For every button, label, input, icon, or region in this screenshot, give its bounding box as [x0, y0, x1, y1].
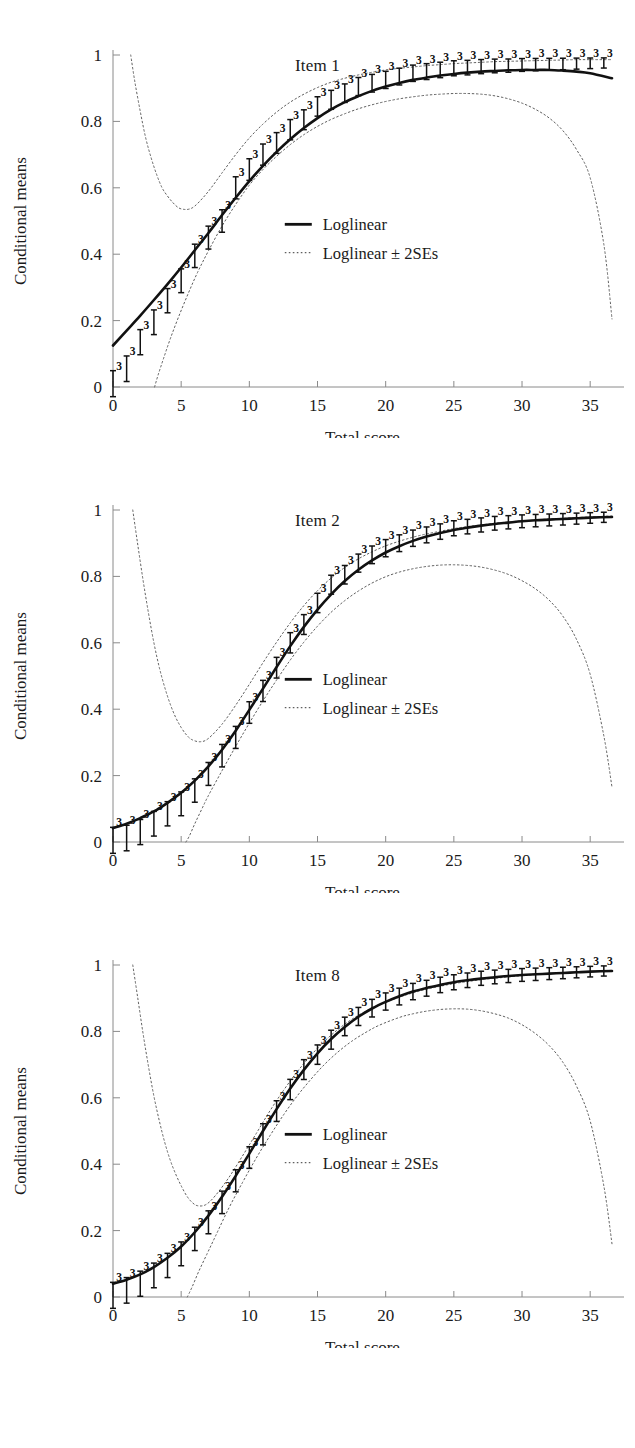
observed-error-bar	[110, 827, 116, 853]
x-tick-label: 35	[582, 851, 599, 870]
observed-error-bar	[110, 371, 116, 397]
y-tick-label: 0.2	[81, 767, 102, 786]
x-axis-title: Total score	[325, 883, 400, 893]
x-tick-label: 30	[514, 1306, 531, 1325]
y-axis-title: Conditional means	[11, 1067, 30, 1195]
observed-point-label: 3	[321, 86, 327, 98]
x-tick-label: 20	[377, 396, 394, 415]
observed-point-label: 3	[321, 582, 327, 594]
observed-point-label: 3	[157, 299, 163, 311]
legend-solid-label: Loglinear	[323, 215, 388, 234]
x-tick-label: 25	[445, 1306, 462, 1325]
observed-error-bar	[124, 825, 130, 851]
legend-dotted-label: Loglinear ± 2SEs	[323, 244, 438, 263]
observed-point-label: 3	[280, 122, 286, 134]
chart-svg: 0510152025303500.20.40.60.81Total scoreC…	[0, 493, 635, 893]
y-tick-label: 0.6	[81, 1089, 102, 1108]
observed-point-label: 3	[293, 622, 299, 634]
y-tick-label: 0.2	[81, 312, 102, 331]
x-tick-label: 35	[582, 1306, 599, 1325]
y-axis-title: Conditional means	[11, 612, 30, 740]
observed-point-label: 3	[130, 345, 136, 357]
plot-area-0: 0510152025303500.20.40.60.81Total scoreC…	[0, 38, 635, 438]
y-tick-label: 0	[94, 378, 103, 397]
observed-point-label: 3	[334, 79, 340, 91]
x-tick-label: 5	[177, 396, 186, 415]
observed-point-label: 3	[116, 360, 122, 372]
plot-area-1: 0510152025303500.20.40.60.81Total scoreC…	[0, 493, 635, 893]
y-tick-label: 0.6	[81, 634, 102, 653]
x-tick-label: 25	[445, 396, 462, 415]
observed-error-bar	[124, 356, 130, 382]
y-tick-label: 0.4	[81, 700, 103, 719]
figure-page: Item 1 0510152025303500.20.40.60.81Total…	[0, 0, 635, 1448]
x-tick-label: 35	[582, 396, 599, 415]
y-tick-label: 0	[94, 833, 103, 852]
observed-error-bar	[342, 84, 348, 103]
x-tick-label: 10	[241, 396, 258, 415]
x-tick-label: 20	[377, 1306, 394, 1325]
se-band-line	[155, 93, 612, 387]
observed-error-bar	[396, 535, 402, 552]
legend-dotted-label: Loglinear ± 2SEs	[323, 1154, 438, 1173]
y-tick-label: 0.8	[81, 567, 102, 586]
observed-point-label: 3	[334, 1019, 340, 1031]
x-tick-label: 10	[241, 1306, 258, 1325]
observed-error-bar	[328, 90, 334, 109]
panel-title: Item 2	[0, 511, 635, 531]
y-tick-label: 0.2	[81, 1222, 102, 1241]
observed-error-bar	[151, 310, 157, 335]
y-tick-label: 0.6	[81, 179, 102, 198]
x-tick-label: 20	[377, 851, 394, 870]
observed-point-label: 3	[143, 319, 149, 331]
panel-title: Item 8	[0, 966, 635, 986]
x-tick-label: 5	[177, 851, 186, 870]
x-tick-label: 30	[514, 396, 531, 415]
x-tick-label: 15	[309, 396, 326, 415]
x-tick-label: 30	[514, 851, 531, 870]
observed-point-label: 3	[348, 1006, 354, 1018]
chart-panel-item-1: Item 1 0510152025303500.20.40.60.81Total…	[0, 38, 635, 493]
chart-svg: 0510152025303500.20.40.60.81Total scoreC…	[0, 948, 635, 1348]
observed-point-label: 3	[375, 535, 381, 547]
observed-point-label: 3	[307, 99, 313, 111]
observed-error-bar	[178, 269, 184, 293]
x-tick-label: 15	[309, 1306, 326, 1325]
observed-point-label: 3	[307, 604, 313, 616]
observed-point-label: 3	[252, 148, 258, 160]
x-tick-label: 10	[241, 851, 258, 870]
y-tick-label: 0.4	[81, 1155, 103, 1174]
observed-error-bar	[137, 330, 143, 355]
x-tick-label: 25	[445, 851, 462, 870]
x-axis-title: Total score	[325, 1338, 400, 1348]
observed-error-bar	[137, 819, 143, 844]
legend-solid-label: Loglinear	[323, 1125, 388, 1144]
x-tick-label: 5	[177, 1306, 186, 1325]
chart-panel-item-2: Item 2 0510152025303500.20.40.60.81Total…	[0, 493, 635, 948]
observed-error-bar	[165, 289, 171, 313]
observed-error-bar	[151, 811, 157, 836]
chart-svg: 0510152025303500.20.40.60.81Total scoreC…	[0, 38, 635, 438]
observed-point-label: 3	[293, 109, 299, 121]
observed-point-label: 3	[375, 988, 381, 1000]
legend-dotted-label: Loglinear ± 2SEs	[323, 699, 438, 718]
observed-error-bar	[315, 97, 321, 116]
chart-panel-item-8: Item 8 0510152025303500.20.40.60.81Total…	[0, 948, 635, 1403]
observed-point-label: 3	[362, 543, 368, 555]
plot-area-2: 0510152025303500.20.40.60.81Total scoreC…	[0, 948, 635, 1348]
y-tick-label: 0.8	[81, 112, 102, 131]
observed-point-label: 3	[362, 996, 368, 1008]
x-tick-label: 15	[309, 851, 326, 870]
x-axis-title: Total score	[325, 428, 400, 438]
observed-error-bar	[355, 78, 361, 96]
observed-point-label: 3	[348, 554, 354, 566]
y-axis-title: Conditional means	[11, 157, 30, 285]
x-tick-label: 0	[109, 396, 118, 415]
y-tick-label: 0.4	[81, 245, 103, 264]
observed-point-label: 3	[239, 166, 245, 178]
observed-point-label: 3	[266, 133, 272, 145]
y-tick-label: 0	[94, 1288, 103, 1307]
y-tick-label: 0.8	[81, 1022, 102, 1041]
legend-solid-label: Loglinear	[323, 670, 388, 689]
panel-title: Item 1	[0, 56, 635, 76]
